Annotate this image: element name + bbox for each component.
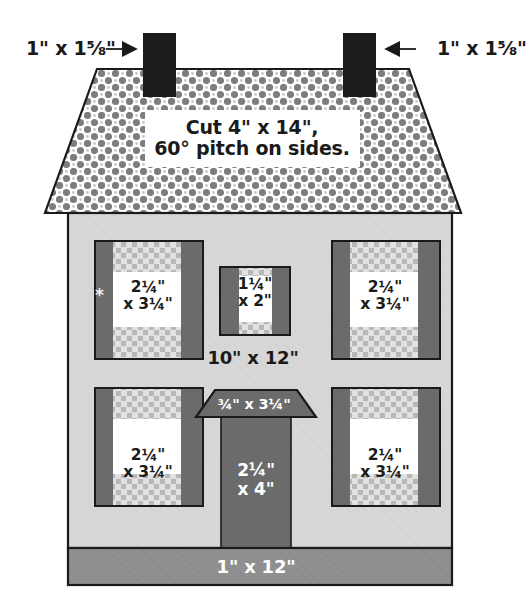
window-bottom-right-line-2: x 3¼" (360, 464, 409, 481)
roof-note-line-1: Cut 4" x 14", (186, 116, 319, 138)
foundation-dimension-label: 1" x 12" (217, 557, 296, 577)
window-top-center-line-2: x 2" (238, 293, 272, 310)
window-top-center-line-1: 1¼" (238, 275, 272, 293)
door-awning-dimension-label: ¾" x 3¼" (217, 396, 290, 412)
window-top-left-label: 2¼" x 3¼" (123, 279, 172, 314)
window-bottom-left-label: 2¼" x 3¼" (123, 447, 172, 482)
window-top-right-line-1: 2¼" (368, 278, 402, 296)
window-top-right-label: 2¼" x 3¼" (360, 279, 409, 314)
window-top-left-marker: * (95, 286, 104, 305)
door-dimension-label: 2¼" x 4" (237, 461, 275, 499)
window-bottom-left-line-2: x 3¼" (123, 464, 172, 481)
window-top-right-line-2: x 3¼" (360, 296, 409, 313)
window-top-center-label: 1¼" x 2" (238, 276, 272, 311)
chimney-left (143, 33, 176, 97)
window-top-left-line-1: 2¼" (131, 278, 165, 296)
roof-note-line-2: 60° pitch on sides. (154, 138, 349, 159)
chimney-right (343, 33, 376, 97)
house-body-dimension-label: 10" x 12" (207, 348, 298, 368)
window-top-left-line-2: x 3¼" (123, 296, 172, 313)
door-label-line-1: 2¼" (237, 460, 275, 480)
window-bottom-right-label: 2¼" x 3¼" (360, 447, 409, 482)
roof-cut-note: Cut 4" x 14", 60° pitch on sides. (154, 117, 349, 160)
chimney-right-dimension-label: 1" x 1⅝" (437, 38, 527, 59)
window-bottom-left-line-1: 2¼" (131, 446, 165, 464)
chimney-left-dimension-label: 1" x 1⅝" (26, 38, 116, 59)
door-label-line-2: x 4" (237, 480, 275, 499)
window-bottom-right-line-1: 2¼" (368, 446, 402, 464)
